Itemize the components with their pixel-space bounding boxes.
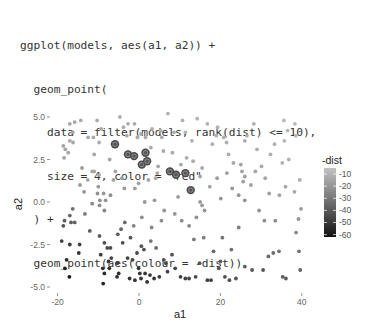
data-point	[96, 185, 100, 189]
data-point	[80, 166, 84, 170]
data-point	[126, 256, 130, 260]
data-point	[139, 277, 143, 281]
colorbar-label: -50	[339, 217, 352, 227]
data-point	[68, 122, 72, 126]
data-point	[128, 277, 132, 281]
data-point	[157, 275, 161, 279]
data-point	[104, 198, 108, 202]
data-point	[294, 231, 298, 235]
data-point	[269, 153, 273, 157]
data-point	[143, 200, 147, 204]
data-point	[194, 275, 198, 279]
data-point	[136, 136, 140, 140]
x-tick-label: 20	[216, 297, 226, 307]
data-point	[225, 141, 229, 145]
data-point	[102, 192, 106, 196]
data-point	[71, 130, 75, 134]
highlight-point-core	[140, 163, 143, 166]
data-point	[214, 134, 218, 138]
data-point	[66, 151, 70, 155]
colorbar-label: -10	[339, 169, 352, 179]
data-point	[281, 275, 285, 279]
data-point	[230, 187, 234, 191]
data-point	[137, 266, 141, 270]
colorbar-label: -40	[339, 205, 352, 215]
data-point	[172, 130, 176, 134]
data-point	[217, 266, 221, 270]
data-point	[173, 266, 177, 270]
data-point	[216, 125, 220, 129]
data-point	[263, 176, 267, 180]
data-point	[164, 261, 168, 265]
data-point	[101, 266, 105, 270]
data-point	[135, 251, 139, 255]
data-point	[293, 122, 297, 126]
data-point	[187, 277, 191, 281]
data-point	[109, 256, 113, 260]
colorbar-legend: -dist -10-20-30-40-50-60	[322, 154, 352, 240]
data-point	[282, 119, 286, 123]
data-point	[298, 178, 302, 182]
data-point	[293, 190, 297, 194]
data-point	[68, 214, 72, 218]
data-point	[133, 187, 137, 191]
y-tick-label: -2.5	[30, 240, 45, 250]
data-point	[284, 185, 288, 189]
data-point	[212, 249, 216, 253]
data-point	[149, 146, 153, 150]
data-point	[60, 239, 64, 243]
data-point	[195, 117, 199, 121]
data-point	[184, 277, 188, 281]
data-point	[185, 156, 189, 160]
data-point	[71, 207, 75, 211]
highlight-point-core	[144, 151, 147, 154]
data-point	[108, 158, 112, 162]
data-point	[240, 170, 244, 174]
data-point	[149, 239, 153, 243]
data-point	[117, 272, 121, 276]
data-point	[234, 277, 238, 281]
data-point	[98, 198, 102, 202]
data-point	[171, 151, 175, 155]
x-axis-label: a1	[174, 308, 186, 320]
data-point	[140, 215, 144, 219]
data-point	[219, 197, 223, 201]
data-point	[176, 195, 180, 199]
data-point	[173, 212, 177, 216]
data-point	[263, 219, 267, 223]
data-point	[294, 134, 298, 138]
data-point	[114, 170, 118, 174]
data-point	[97, 141, 101, 145]
data-point	[118, 115, 122, 119]
data-point	[77, 251, 81, 255]
data-point	[227, 153, 231, 157]
data-point	[232, 161, 236, 165]
highlight-point-core	[145, 160, 148, 163]
data-point	[254, 170, 258, 174]
data-point	[122, 125, 126, 129]
data-point	[280, 161, 284, 165]
data-point	[107, 260, 111, 264]
data-points	[60, 112, 303, 286]
data-point	[202, 236, 206, 240]
data-point	[154, 246, 158, 250]
highlight-point-core	[174, 173, 177, 176]
data-point	[116, 232, 120, 236]
data-point	[198, 175, 202, 179]
data-point	[97, 173, 101, 177]
data-point	[206, 278, 210, 282]
data-point	[273, 142, 277, 146]
data-point	[160, 219, 164, 223]
data-point	[162, 258, 166, 262]
data-point	[179, 163, 183, 167]
data-point	[138, 272, 142, 276]
data-point	[184, 130, 188, 134]
data-point	[98, 234, 102, 238]
data-point	[68, 243, 72, 247]
data-point	[129, 236, 133, 240]
data-point	[219, 260, 223, 264]
data-point	[140, 244, 144, 248]
data-point	[69, 221, 73, 225]
data-point	[257, 209, 261, 213]
data-point	[260, 164, 264, 168]
